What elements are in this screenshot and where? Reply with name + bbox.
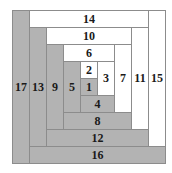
strip-7: 7 — [114, 44, 132, 113]
strip-2: 2 — [80, 61, 98, 79]
strip-14: 14 — [29, 10, 149, 28]
strip-3: 3 — [97, 61, 115, 96]
strip-8: 8 — [63, 112, 132, 130]
strip-17: 17 — [12, 10, 30, 164]
strip-6: 6 — [63, 44, 115, 62]
strip-1: 1 — [80, 78, 98, 96]
strip-13: 13 — [29, 27, 47, 147]
strip-5: 5 — [63, 61, 81, 113]
log-cabin-diagram: 1234567891011121314151617 — [12, 10, 165, 163]
strip-11: 11 — [131, 27, 149, 130]
strip-16: 16 — [29, 146, 166, 164]
strip-9: 9 — [46, 44, 64, 130]
strip-15: 15 — [148, 10, 166, 147]
strip-10: 10 — [46, 27, 132, 45]
strip-4: 4 — [80, 95, 115, 113]
strip-12: 12 — [46, 129, 149, 147]
